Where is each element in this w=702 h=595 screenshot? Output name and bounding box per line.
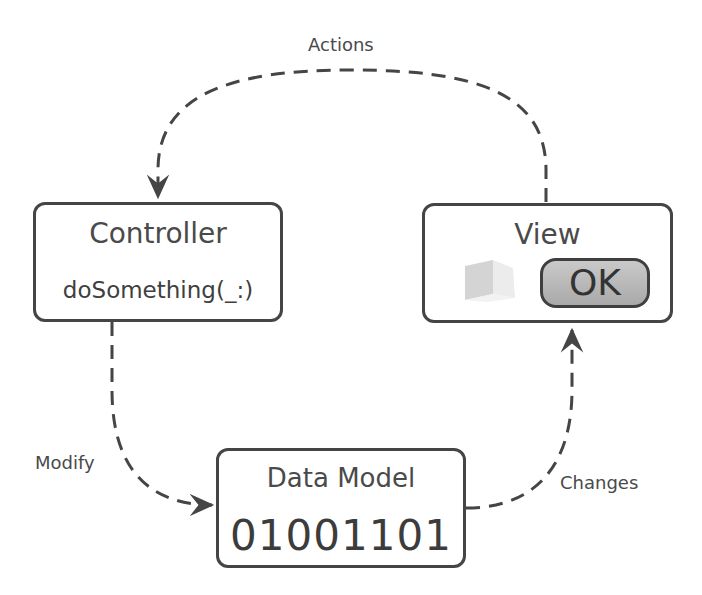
- actions-edge: [158, 70, 546, 202]
- data-model-node: Data Model 01001101: [216, 448, 466, 568]
- modify-label: Modify: [35, 452, 95, 473]
- ok-button[interactable]: OK: [540, 258, 650, 308]
- data-model-title: Data Model: [219, 463, 463, 493]
- controller-method: doSomething(_:): [36, 277, 280, 303]
- mvc-diagram: Actions Modify Changes Controller doSome…: [0, 0, 702, 595]
- cube-icon: [463, 260, 517, 302]
- changes-edge: [466, 330, 572, 508]
- actions-label: Actions: [308, 34, 374, 55]
- view-title: View: [425, 218, 670, 251]
- controller-title: Controller: [36, 217, 280, 250]
- data-model-value: 01001101: [219, 511, 463, 560]
- controller-node: Controller doSomething(_:): [33, 202, 283, 322]
- changes-label: Changes: [560, 472, 638, 493]
- modify-edge: [112, 322, 212, 505]
